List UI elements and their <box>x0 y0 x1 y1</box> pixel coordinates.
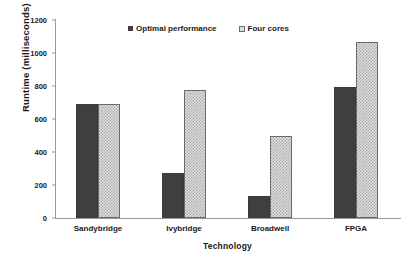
y-axis-ticks: 1200 1000 800 600 400 200 0 <box>0 0 55 262</box>
bar-group-broadwell <box>248 20 292 218</box>
bar-optimal-performance-sandybridge <box>76 104 98 218</box>
y-tick-label: 800 <box>34 82 47 91</box>
bar-chart: Runtime (milliseconds) 1200 1000 800 600… <box>0 0 417 262</box>
y-tick-label: 400 <box>34 148 47 157</box>
bar-four-cores-broadwell <box>270 136 292 218</box>
bar-four-cores-ivybridge <box>184 90 206 218</box>
bar-optimal-performance-ivybridge <box>162 173 184 218</box>
x-label-sandybridge: Sandybridge <box>74 224 122 233</box>
x-axis-category-labels: Sandybridge Ivybridge Broadwell FPGA <box>55 224 400 238</box>
x-label-ivybridge: Ivybridge <box>166 224 202 233</box>
y-tick-label: 600 <box>34 115 47 124</box>
bar-group-fpga <box>334 20 378 218</box>
x-label-broadwell: Broadwell <box>251 224 289 233</box>
bar-optimal-performance-broadwell <box>248 196 270 218</box>
bar-optimal-performance-fpga <box>334 87 356 218</box>
y-tick-label: 200 <box>34 181 47 190</box>
y-tick-label: 0 <box>43 214 47 223</box>
bar-groups <box>55 20 400 218</box>
bar-group-ivybridge <box>162 20 206 218</box>
bar-four-cores-sandybridge <box>98 104 120 218</box>
x-label-fpga: FPGA <box>345 224 367 233</box>
x-axis-line <box>55 218 401 219</box>
bar-four-cores-fpga <box>356 42 378 218</box>
bar-group-sandybridge <box>76 20 120 218</box>
x-axis-title: Technology <box>55 241 400 251</box>
y-tick-label: 1000 <box>30 49 47 58</box>
